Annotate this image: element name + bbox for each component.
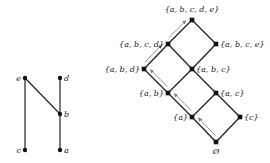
poset-node-b [58,112,62,116]
lattice-node-abc [190,67,195,72]
poset-node-c [23,148,27,152]
lattice-label-ab: {a, b} [139,89,164,98]
lattice-node-ab [166,91,171,96]
lattice-label-abcd: {a, b, c, d} [119,40,164,49]
lattice-label-abd: {a, b, d} [105,65,140,74]
poset-label-d: d [64,74,69,83]
poset-label-c: c [17,146,22,155]
poset-label-b: b [64,110,69,119]
poset-node-a [58,148,62,152]
down-set-lattice: {a, b, c, d, e}{a, b, c, d}{a, b, c, e}{… [105,5,265,156]
poset-edge [25,78,60,114]
lattice-edge [168,44,192,69]
lattice-node-abd [142,67,147,72]
lattice-label-ac: {a, c} [220,89,245,98]
lattice-node-empty [214,140,219,145]
lattice-node-abce [214,42,219,47]
lattice-edge [192,117,216,142]
lattice-node-c [238,115,243,120]
lattice-label-c: {c} [244,113,259,122]
lattice-edge [216,117,240,142]
lattice-edge [168,20,192,44]
lattice-edge [192,20,216,44]
lattice-node-abcd [166,42,171,47]
poset-lattice-diagram: edbca {a, b, c, d, e}{a, b, c, d}{a, b, … [0,0,270,163]
lattice-label-empty: Ø [212,147,220,156]
lattice-label-abc: {a, b, c} [196,65,231,74]
poset-label-a: a [64,146,69,155]
lattice-node-abcde [190,18,195,23]
lattice-node-ac [214,91,219,96]
lattice-label-abce: {a, b, c, e} [220,40,265,49]
poset-hasse-diagram: edbca [16,74,69,155]
poset-label-e: e [16,74,21,83]
lattice-node-a [190,115,195,120]
lattice-edge [168,69,192,93]
lattice-edge [192,93,216,117]
lattice-label-abcde: {a, b, c, d, e} [165,5,220,14]
poset-node-e [23,76,27,80]
poset-node-d [58,76,62,80]
lattice-label-a: {a} [173,113,188,122]
